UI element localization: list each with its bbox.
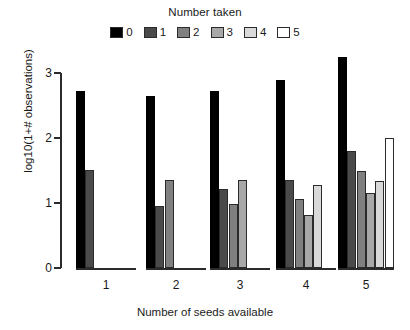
bar-seeds-4-taken-1: [285, 180, 294, 268]
bar-seeds-5-taken-2: [357, 171, 366, 269]
group-baseline-5: [338, 268, 394, 270]
y-tick-3: [54, 72, 61, 74]
y-tick-label-1: 1: [36, 197, 52, 209]
x-tick-label-4: 4: [276, 279, 336, 291]
bar-seeds-4-taken-0: [276, 80, 285, 269]
bar-group-4: 4: [276, 0, 336, 330]
y-tick-label-3: 3: [36, 67, 52, 79]
bar-seeds-1-taken-1: [85, 170, 94, 268]
y-axis-line: [60, 73, 62, 268]
x-tick-label-2: 2: [146, 279, 206, 291]
bar-seeds-4-taken-3: [304, 215, 313, 268]
y-axis-title: log10(1+# observations): [22, 1, 34, 221]
bar-group-5: 5: [338, 0, 394, 330]
bar-group-1: 1: [76, 0, 136, 330]
x-tick-label-5: 5: [338, 279, 394, 291]
bar-group-3: 3: [210, 0, 270, 330]
bar-seeds-1-taken-0: [76, 91, 85, 268]
bar-seeds-5-taken-4: [375, 181, 384, 268]
group-baseline-4: [276, 268, 336, 270]
y-tick-1: [54, 202, 61, 204]
chart-figure: Number taken 012345 log10(1+# observatio…: [0, 0, 410, 330]
bar-seeds-5-taken-0: [338, 57, 347, 268]
group-baseline-1: [76, 268, 136, 270]
y-tick-0: [54, 267, 61, 269]
y-tick-2: [54, 137, 61, 139]
bar-seeds-3-taken-0: [210, 91, 219, 268]
bar-seeds-3-taken-1: [219, 189, 228, 268]
bar-seeds-4-taken-2: [295, 199, 304, 268]
bar-seeds-2-taken-2: [165, 180, 174, 268]
bar-seeds-5-taken-5: [385, 138, 394, 268]
bar-seeds-2-taken-1: [155, 206, 164, 268]
x-tick-label-1: 1: [76, 279, 136, 291]
bar-seeds-3-taken-2: [229, 204, 238, 268]
y-tick-label-0: 0: [36, 262, 52, 274]
y-tick-label-2: 2: [36, 132, 52, 144]
bar-seeds-2-taken-0: [146, 96, 155, 268]
x-tick-label-3: 3: [210, 279, 270, 291]
bar-group-2: 2: [146, 0, 206, 330]
bar-seeds-5-taken-3: [366, 193, 375, 268]
plot-area: log10(1+# observations) Number of seeds …: [0, 0, 410, 330]
bar-seeds-4-taken-4: [313, 185, 322, 268]
bar-seeds-5-taken-1: [347, 151, 356, 268]
bar-seeds-3-taken-3: [238, 180, 247, 268]
group-baseline-2: [146, 268, 206, 270]
group-baseline-3: [210, 268, 270, 270]
